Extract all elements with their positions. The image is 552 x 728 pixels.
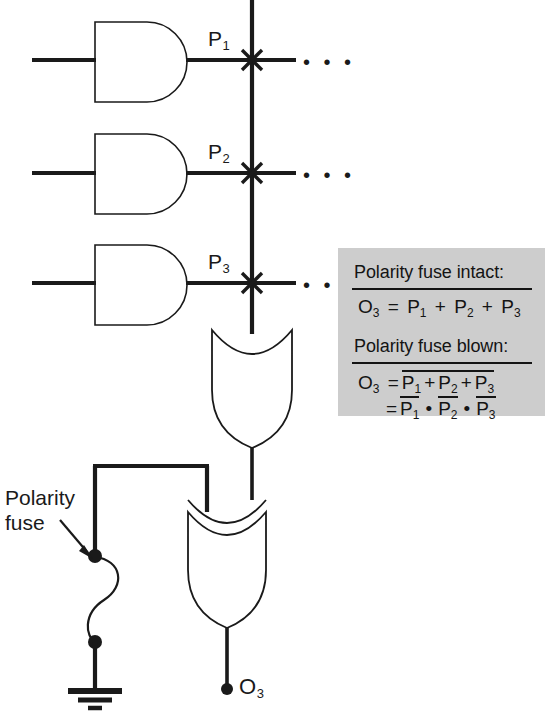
polarity-fuse-label: Polarity fuse <box>5 486 75 536</box>
product-term-label-p1: P1 <box>208 28 230 52</box>
or-gate <box>212 330 292 448</box>
and-gate-3 <box>95 245 187 325</box>
continuation-dots-row-2: • • • <box>303 165 355 185</box>
formula-heading-blown: Polarity fuse blown: <box>354 336 508 357</box>
formula-equation-blown-line1: O3 =P1+P2+P3 <box>358 370 494 396</box>
ground-symbol <box>68 691 122 708</box>
product-term-label-p2: P2 <box>208 141 230 165</box>
and-gate-1 <box>95 22 187 102</box>
logic-diagram: P1 P2 P3 • • • • • • • • • Polarity fuse… <box>0 0 552 728</box>
formula-divider-blown <box>352 362 532 364</box>
formula-panel: Polarity fuse intact: O3 = P1 + P2 + P3 … <box>338 248 545 416</box>
product-term-label-p3: P3 <box>208 251 230 275</box>
and-gate-2 <box>95 134 187 214</box>
xor-gate <box>188 512 266 628</box>
term-overline-p2: P2 <box>438 396 457 422</box>
formula-divider-intact <box>352 288 532 290</box>
term-overline-p1: P1 <box>400 396 419 422</box>
group-overline: P1+P2+P3 <box>402 370 494 396</box>
xor-gate-extra-arc <box>188 500 266 523</box>
continuation-dots-row-1: • • • <box>303 52 355 72</box>
polarity-fuse-squiggle <box>88 557 118 641</box>
term-overline-p3: P3 <box>476 396 495 422</box>
formula-heading-intact: Polarity fuse intact: <box>354 262 504 283</box>
output-label-o3: O3 <box>239 676 264 700</box>
formula-equation-blown-line2: =P1•P2•P3 <box>386 396 496 422</box>
polarity-fuse-label-line2: fuse <box>5 511 75 536</box>
output-terminal-dot <box>221 683 233 695</box>
formula-equation-intact: O3 = P1 + P2 + P3 <box>358 296 521 320</box>
polarity-fuse-label-line1: Polarity <box>5 486 75 511</box>
